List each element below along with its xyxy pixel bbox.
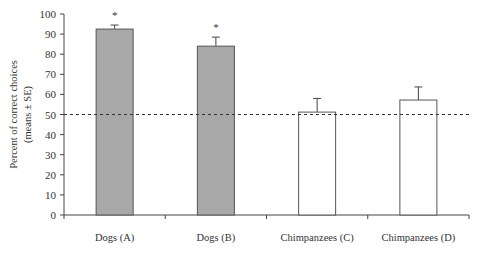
bar [400,100,437,215]
y-tick-label: 80 [45,48,57,60]
significance-marker: * [213,21,219,33]
x-tick-label: Chimpanzees (D) [381,232,455,244]
y-tick-label: 20 [45,169,57,181]
y-tick-label: 50 [45,109,57,121]
y-tick-label: 90 [45,28,57,40]
x-tick-label: Chimpanzees (C) [281,232,355,244]
bar [299,112,336,215]
y-tick-label: 60 [45,88,57,100]
y-tick-label: 10 [45,189,57,201]
bar [197,46,234,215]
y-axis-label-sub: (means ± SE) [22,85,34,143]
bar-chart: 0102030405060708090100Percent of correct… [0,0,479,255]
x-tick-label: Dogs (B) [196,232,235,244]
significance-marker: * [112,9,118,21]
y-axis-label: Percent of correct choices [8,60,19,169]
y-tick-label: 70 [45,68,57,80]
y-tick-label: 0 [51,209,57,221]
y-tick-label: 40 [45,129,57,141]
y-tick-label: 30 [45,149,57,161]
bar [96,29,133,215]
x-tick-label: Dogs (A) [95,232,135,244]
y-tick-label: 100 [40,8,57,20]
